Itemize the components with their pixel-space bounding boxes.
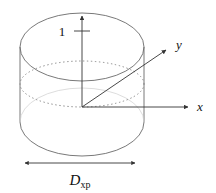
- diameter-symbol: D: [69, 172, 81, 188]
- y-axis-line: [82, 50, 166, 107]
- cylinder-diagram-svg: 1 y x Dxp: [0, 0, 216, 193]
- figure-container: 1 y x Dxp: [0, 0, 216, 193]
- z-tick-label: 1: [59, 24, 66, 39]
- cylinder-bottom-front-arc: [20, 122, 144, 156]
- diameter-dimension: Dxp: [25, 163, 135, 190]
- diameter-subscript: xp: [80, 179, 90, 190]
- y-axis-label: y: [174, 37, 182, 52]
- diameter-label: Dxp: [69, 172, 91, 190]
- x-axis-label: x: [196, 99, 203, 114]
